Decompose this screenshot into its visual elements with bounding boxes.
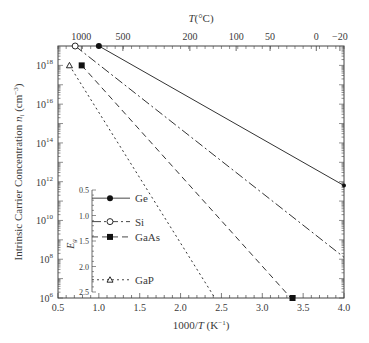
series-si-line bbox=[75, 46, 344, 257]
inset-tick-label: 1.0 bbox=[79, 212, 89, 221]
ge-start-marker bbox=[96, 43, 102, 49]
x-tick-label: 3.5 bbox=[297, 302, 310, 313]
gap-start-marker bbox=[66, 62, 72, 67]
x-axis-label: 1000/T (K−1) bbox=[173, 319, 230, 332]
top-tick-label: 100 bbox=[229, 31, 244, 42]
ge-end-marker bbox=[342, 184, 346, 188]
series-gap-line bbox=[69, 65, 214, 298]
y-tick-label: 108 bbox=[40, 252, 54, 265]
top-tick-label: 1000 bbox=[71, 31, 91, 42]
top-tick-label: 500 bbox=[115, 31, 130, 42]
gaas-end-marker bbox=[290, 295, 296, 301]
x-tick-label: 2.5 bbox=[215, 302, 228, 313]
y-tick-label: 1010 bbox=[36, 213, 54, 226]
inset-tick-label: 1.5 bbox=[79, 237, 89, 246]
chart: 0.51.01.52.02.53.03.54.01000500200100500… bbox=[0, 0, 369, 343]
plot-frame bbox=[58, 46, 344, 298]
y-tick-label: 1018 bbox=[36, 58, 54, 71]
top-tick-label: 0 bbox=[314, 31, 319, 42]
legend-marker-ge bbox=[107, 195, 113, 201]
x-tick-label: 1.0 bbox=[93, 302, 106, 313]
gaas-start-marker bbox=[79, 62, 85, 68]
inset-tick-label: 0.5 bbox=[79, 186, 89, 195]
y-axis-label: Intrinsic Carrier Concentration ni (cm−3… bbox=[12, 83, 26, 260]
series-gaas-line bbox=[82, 65, 291, 298]
legend-label-ge: Ge bbox=[135, 192, 148, 204]
inset-tick-label: 2.0 bbox=[79, 263, 89, 272]
y-tick-label: 1016 bbox=[36, 97, 54, 110]
legend-marker-si bbox=[107, 219, 113, 225]
data-series bbox=[66, 43, 346, 301]
top-tick-label: 200 bbox=[182, 31, 197, 42]
y-tick-label: 1014 bbox=[36, 136, 54, 149]
x-tick-label: 0.5 bbox=[52, 302, 65, 313]
top-tick-label: −20 bbox=[332, 31, 348, 42]
si-start-marker bbox=[72, 43, 78, 49]
inset-tick-label: 2.5 bbox=[79, 288, 89, 297]
x-tick-label: 1.5 bbox=[133, 302, 146, 313]
legend-label-si: Si bbox=[135, 216, 144, 228]
x-tick-label: 4.0 bbox=[338, 302, 351, 313]
legend-marker-gaas bbox=[107, 234, 113, 240]
bandgap-inset-legend: 0.51.01.52.02.5EgGeSiGaAsGaP bbox=[65, 186, 160, 297]
top-tick-label: 50 bbox=[265, 31, 275, 42]
legend-label-gap: GaP bbox=[135, 274, 154, 286]
top-axis-label: T(°C) bbox=[188, 12, 214, 25]
x-tick-label: 2.0 bbox=[174, 302, 187, 313]
series-ge-line bbox=[99, 46, 344, 186]
x-tick-label: 3.0 bbox=[256, 302, 269, 313]
legend-label-gaas: GaAs bbox=[135, 231, 160, 243]
y-tick-label: 1012 bbox=[36, 175, 54, 188]
inset-ylabel: Eg bbox=[65, 239, 78, 250]
plot-border bbox=[58, 46, 344, 298]
